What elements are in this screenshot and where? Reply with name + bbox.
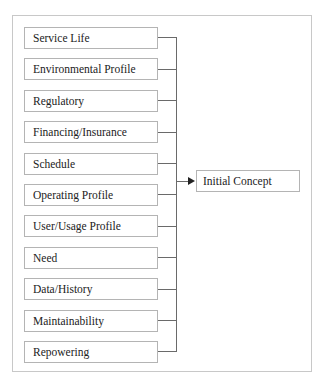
connector-line <box>158 100 176 101</box>
factor-box-schedule: Schedule <box>24 153 158 175</box>
factor-box-repowering: Repowering <box>24 341 158 363</box>
factor-box-operating-profile: Operating Profile <box>24 184 158 206</box>
connector-line <box>158 132 176 133</box>
factor-box-data-history: Data/History <box>24 278 158 300</box>
connector-line <box>158 257 176 258</box>
connector-line <box>158 37 176 38</box>
arrow-right-icon <box>188 177 195 185</box>
output-box-initial-concept: Initial Concept <box>196 170 300 192</box>
factor-box-regulatory: Regulatory <box>24 90 158 112</box>
connector-line <box>158 226 176 227</box>
connector-line <box>158 320 176 321</box>
bracket-line <box>176 37 177 352</box>
factor-box-user-usage-profile: User/Usage Profile <box>24 215 158 237</box>
factor-box-financing-insurance: Financing/Insurance <box>24 121 158 143</box>
factor-box-service-life: Service Life <box>24 27 158 49</box>
connector-line <box>158 351 176 352</box>
connector-line <box>158 69 176 70</box>
factor-box-maintainability: Maintainability <box>24 310 158 332</box>
factor-box-environmental-profile: Environmental Profile <box>24 58 158 80</box>
connector-line <box>158 289 176 290</box>
factor-box-need: Need <box>24 247 158 269</box>
connector-line <box>158 163 176 164</box>
connector-line <box>158 194 176 195</box>
